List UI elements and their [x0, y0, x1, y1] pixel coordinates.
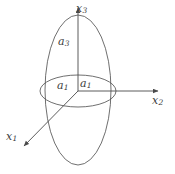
dimension-label-a1-left: a1 — [57, 80, 69, 92]
x1-axis-line — [24, 91, 78, 146]
axis-label-x3: x3 — [76, 3, 87, 15]
axis-label-x1: x1 — [6, 131, 17, 143]
ellipsoid-figure: x3 x2 x1 a3 a1 a1 — [0, 0, 175, 174]
dimension-label-a3: a3 — [58, 36, 70, 48]
axis-label-x2: x2 — [152, 95, 163, 107]
dimension-label-a1-right: a1 — [80, 78, 92, 90]
